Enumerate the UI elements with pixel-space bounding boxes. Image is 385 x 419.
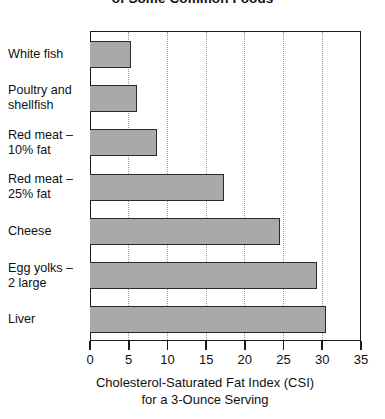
x-axis-tick-labels: 05101520253035 (0, 352, 385, 370)
bar (90, 41, 131, 68)
tick-label: 20 (225, 352, 265, 367)
tick-mark-5 (128, 341, 130, 350)
category-label-line: Cheese (8, 224, 84, 239)
tick-label: 30 (302, 352, 342, 367)
category-label: Cheese (8, 224, 84, 239)
category-label: Poultry andshellfish (8, 83, 84, 113)
category-label-line: 25% fat (8, 187, 84, 202)
bar (90, 129, 157, 156)
bar (90, 85, 137, 112)
x-axis-title: Cholesterol-Saturated Fat Index (CSI) fo… (40, 374, 370, 408)
category-label-line: Egg yolks – (8, 261, 84, 276)
tick-label: 10 (147, 352, 187, 367)
chart-title: of Some Common Foods (0, 0, 385, 6)
tick-label: 35 (341, 352, 381, 367)
category-label-line: 2 large (8, 276, 84, 291)
category-label-line: Liver (8, 312, 84, 327)
tick-label: 25 (264, 352, 304, 367)
category-label-line: 10% fat (8, 143, 84, 158)
category-label-line: Poultry and (8, 83, 84, 98)
category-label: Red meat –25% fat (8, 172, 84, 202)
tick-mark-0 (89, 341, 91, 350)
x-axis-title-line1: Cholesterol-Saturated Fat Index (CSI) (40, 374, 370, 391)
category-axis-labels: White fishPoultry andshellfishRed meat –… (0, 31, 88, 341)
tick-mark-30 (321, 341, 323, 350)
category-label: Liver (8, 312, 84, 327)
category-label-line: Red meat – (8, 172, 84, 187)
tick-label: 5 (109, 352, 149, 367)
x-axis-title-line2: for a 3-Ounce Serving (40, 391, 370, 408)
bar (90, 218, 280, 245)
bar (90, 306, 326, 333)
tick-mark-35 (360, 341, 362, 350)
bars-layer (90, 31, 362, 341)
tick-label: 0 (70, 352, 110, 367)
tick-label: 15 (186, 352, 226, 367)
category-label-line: Red meat – (8, 128, 84, 143)
tick-mark-25 (283, 341, 285, 350)
category-label-line: White fish (8, 47, 84, 62)
tick-mark-15 (205, 341, 207, 350)
bar (90, 174, 224, 201)
category-label: Egg yolks –2 large (8, 261, 84, 291)
category-label: Red meat –10% fat (8, 128, 84, 158)
tick-mark-20 (244, 341, 246, 350)
bar (90, 262, 317, 289)
tick-mark-10 (167, 341, 169, 350)
category-label-line: shellfish (8, 98, 84, 113)
category-label: White fish (8, 47, 84, 62)
